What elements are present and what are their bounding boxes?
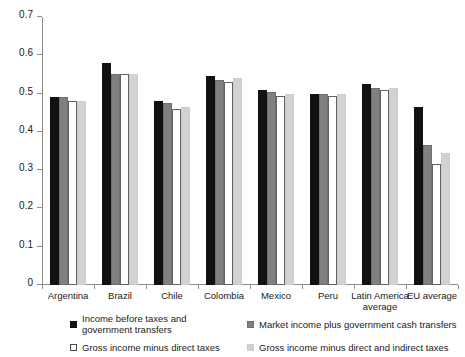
- bar: [267, 92, 276, 285]
- x-axis-tick: [42, 285, 43, 289]
- x-axis-tick: [250, 285, 251, 289]
- bar: [154, 101, 163, 285]
- bar-group: [42, 17, 94, 285]
- bar-chart: 00.10.20.30.40.50.60.7 ArgentinaBrazilCh…: [0, 0, 465, 357]
- legend-item-income-before-taxes: Income before taxes and government trans…: [70, 313, 235, 335]
- plot-area: 00.10.20.30.40.50.60.7: [42, 17, 458, 285]
- bar: [432, 164, 441, 285]
- bar: [414, 107, 423, 285]
- y-axis-tick-label: 0.7: [19, 9, 33, 21]
- bar: [77, 101, 86, 285]
- y-axis-tick-label: 0.1: [19, 239, 33, 251]
- bar: [310, 94, 319, 285]
- legend-label: Income before taxes and government trans…: [82, 313, 235, 335]
- legend-swatch-icon: [70, 321, 77, 328]
- x-axis-category-label: EU average: [400, 290, 464, 301]
- bar: [50, 97, 59, 285]
- bar: [258, 90, 267, 285]
- bar: [224, 82, 233, 285]
- legend-swatch-icon: [70, 344, 77, 351]
- bar: [163, 103, 172, 285]
- bar: [102, 63, 111, 285]
- bar: [328, 96, 337, 286]
- legend-item-gross-minus-direct: Gross income minus direct taxes: [70, 342, 235, 353]
- legend-item-gross-minus-direct-indirect: Gross income minus direct and indirect t…: [247, 342, 449, 353]
- bar-group: [146, 17, 198, 285]
- y-axis-tick-label: 0.4: [19, 124, 33, 136]
- bar: [68, 101, 77, 285]
- bar: [380, 90, 389, 285]
- bar: [337, 94, 346, 285]
- bar: [276, 96, 285, 286]
- x-axis-tick: [198, 285, 199, 289]
- bar: [181, 107, 190, 285]
- legend-swatch-icon: [247, 344, 254, 351]
- bar: [389, 88, 398, 285]
- x-axis-tick: [406, 285, 407, 289]
- bar: [285, 94, 294, 285]
- y-axis-tick-label: 0.5: [19, 86, 33, 98]
- bar: [215, 80, 224, 285]
- bar-group: [250, 17, 302, 285]
- x-axis-tick: [302, 285, 303, 289]
- bar: [319, 94, 328, 285]
- bar: [59, 97, 68, 285]
- bar: [111, 74, 120, 285]
- bar: [233, 78, 242, 285]
- x-axis-tick: [458, 285, 459, 289]
- bar-group: [354, 17, 406, 285]
- bar: [362, 84, 371, 285]
- y-axis-tick-label: 0: [27, 277, 33, 289]
- chart-legend: Income before taxes and government trans…: [0, 313, 465, 357]
- bar: [441, 153, 450, 285]
- legend-row-1: Income before taxes and government trans…: [0, 313, 465, 335]
- x-axis-tick: [94, 285, 95, 289]
- legend-swatch-icon: [247, 321, 254, 328]
- bar: [206, 76, 215, 285]
- x-axis-tick: [146, 285, 147, 289]
- bar-group: [302, 17, 354, 285]
- y-axis-tick-label: 0.3: [19, 162, 33, 174]
- bar: [371, 88, 380, 285]
- bar: [423, 145, 432, 285]
- bar-group: [406, 17, 458, 285]
- bar-group: [198, 17, 250, 285]
- legend-label: Gross income minus direct taxes: [82, 342, 220, 353]
- bar: [172, 109, 181, 285]
- bar: [129, 74, 138, 285]
- legend-label: Gross income minus direct and indirect t…: [259, 342, 449, 353]
- legend-label: Market income plus government cash trans…: [259, 319, 456, 330]
- bar: [120, 74, 129, 285]
- legend-row-2: Gross income minus direct taxes Gross in…: [0, 342, 465, 353]
- legend-item-market-income-plus-cash: Market income plus government cash trans…: [247, 313, 456, 335]
- y-axis-tick-label: 0.2: [19, 200, 33, 212]
- x-axis-tick: [354, 285, 355, 289]
- y-axis-tick-label: 0.6: [19, 47, 33, 59]
- bar-group: [94, 17, 146, 285]
